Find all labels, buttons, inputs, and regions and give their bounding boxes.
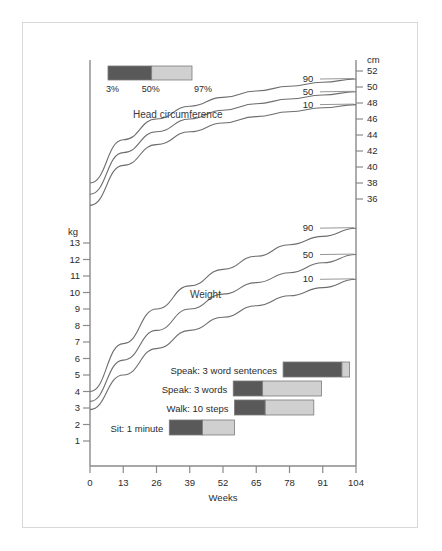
left-axis-tick-label: 10 bbox=[58, 288, 80, 298]
left-axis-tick-label: 11 bbox=[58, 271, 80, 281]
x-axis-tick-label: 39 bbox=[175, 478, 205, 488]
left-axis-tick-label: 8 bbox=[58, 321, 80, 331]
right-axis-unit: cm bbox=[367, 54, 380, 65]
x-axis-tick-label: 0 bbox=[75, 478, 105, 488]
right-axis-tick-label: 50 bbox=[367, 82, 378, 92]
milestone-label: Speak: 3 word sentences bbox=[77, 366, 277, 376]
right-axis-tick-label: 36 bbox=[367, 194, 378, 204]
percentile-leader-line bbox=[320, 91, 354, 92]
milestone-bar-dark bbox=[233, 381, 262, 396]
left-axis-unit: kg bbox=[68, 226, 78, 237]
left-axis-tick-label: 1 bbox=[58, 436, 80, 446]
milestone-label: Walk: 10 steps bbox=[29, 404, 229, 414]
right-axis-tick-label: 40 bbox=[367, 162, 378, 172]
percentile-curve-10 bbox=[90, 105, 356, 206]
legend-swatch-light bbox=[152, 66, 192, 80]
right-axis-tick-label: 38 bbox=[367, 178, 378, 188]
percentile-leader-line bbox=[320, 279, 354, 280]
legend-swatch-dark bbox=[108, 66, 152, 80]
right-axis-tick-label: 44 bbox=[367, 130, 378, 140]
milestone-bar-light bbox=[265, 400, 314, 415]
left-axis-tick-label: 9 bbox=[58, 304, 80, 314]
percentile-leader-line bbox=[320, 79, 354, 80]
milestone-bar-light bbox=[342, 362, 350, 377]
x-axis-tick-label: 78 bbox=[275, 478, 305, 488]
series-label-weight: Weight bbox=[190, 290, 221, 300]
milestone-bar-light bbox=[203, 420, 235, 435]
right-axis-tick-label: 42 bbox=[367, 146, 378, 156]
percentile-leader-line bbox=[320, 228, 354, 229]
legend-swatch bbox=[108, 66, 192, 80]
x-axis-tick-label: 91 bbox=[308, 478, 338, 488]
milestone-label: Speak: 3 words bbox=[27, 385, 227, 395]
x-axis-title: Weeks bbox=[193, 492, 253, 503]
x-axis-tick-label: 52 bbox=[208, 478, 238, 488]
legend-label-mid: 50% bbox=[142, 85, 160, 94]
right-axis-tick-label: 48 bbox=[367, 98, 378, 108]
x-axis-tick-label: 104 bbox=[341, 478, 371, 488]
percentile-label-90: 90 bbox=[293, 74, 323, 84]
left-axis-tick-label: 13 bbox=[58, 238, 80, 248]
percentile-label-10: 10 bbox=[293, 100, 323, 110]
series-label-head-circumference: Head circumference bbox=[133, 110, 222, 120]
percentile-leader-line bbox=[320, 254, 354, 255]
milestone-label: Sit: 1 minute bbox=[0, 424, 163, 434]
percentile-label-10: 10 bbox=[293, 274, 323, 284]
milestone-bar-dark bbox=[283, 362, 342, 377]
right-axis-tick-label: 52 bbox=[367, 66, 378, 76]
left-axis-tick-label: 7 bbox=[58, 337, 80, 347]
percentile-label-50: 50 bbox=[293, 250, 323, 260]
legend-label-low: 3% bbox=[106, 85, 119, 94]
x-axis-tick-label: 65 bbox=[241, 478, 271, 488]
percentile-leader-line bbox=[320, 104, 354, 105]
legend-label-high: 97% bbox=[194, 85, 212, 94]
percentile-label-90: 90 bbox=[293, 223, 323, 233]
left-axis-tick-label: 12 bbox=[58, 255, 80, 265]
chart-page: 3% 50% 97% Head circumference Weight kg … bbox=[0, 0, 442, 551]
left-axis-tick-label: 6 bbox=[58, 354, 80, 364]
milestone-bar-light bbox=[263, 381, 322, 396]
right-axis-tick-label: 46 bbox=[367, 114, 378, 124]
x-axis-tick-label: 26 bbox=[142, 478, 172, 488]
x-axis-tick-label: 13 bbox=[108, 478, 138, 488]
milestone-bar-dark bbox=[169, 420, 202, 435]
milestone-bar-dark bbox=[235, 400, 266, 415]
percentile-label-50: 50 bbox=[293, 87, 323, 97]
percentile-curves bbox=[90, 79, 356, 410]
